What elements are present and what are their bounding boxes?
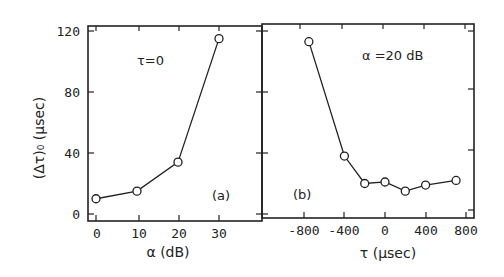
x-tick-a-10: 10: [131, 226, 147, 241]
series-line-b: [309, 42, 456, 191]
data-point-marker: [381, 178, 389, 186]
x-tick-b-800: 800: [454, 223, 477, 238]
y-tick-80: 80: [64, 85, 80, 100]
data-point-marker: [452, 176, 460, 184]
data-point-marker: [92, 195, 100, 203]
annotation-alpha-20db: α =20 dB: [362, 48, 423, 63]
panel-a-frame: [88, 26, 262, 221]
panel-label-b: (b): [293, 187, 311, 202]
data-point-marker: [361, 180, 369, 188]
annotation-tau-zero: τ=0: [137, 53, 164, 68]
x-tick-a-20: 20: [171, 226, 187, 241]
data-point-marker: [401, 187, 409, 195]
x-tick-b-m800: -800: [288, 223, 319, 238]
y-axis-label: (Δτ)₀ (µsec): [31, 97, 47, 179]
x-axis-label-a: α (dB): [146, 244, 189, 260]
x-tick-b-m400: -400: [328, 223, 359, 238]
data-point-marker: [174, 158, 182, 166]
data-point-marker: [422, 181, 430, 189]
data-point-marker: [133, 187, 141, 195]
x-axis-label-b: τ (µsec): [360, 245, 416, 261]
figure: 120 80 40 0 0 10 20 30 -800 -400 0 400 8…: [0, 0, 504, 277]
data-point-marker: [305, 38, 313, 46]
x-tick-a-0: 0: [93, 226, 101, 241]
x-tick-b-0: 0: [381, 223, 389, 238]
panel-label-a: (a): [212, 188, 230, 203]
y-tick-40: 40: [64, 146, 80, 161]
y-tick-120: 120: [57, 24, 80, 39]
x-tick-a-30: 30: [211, 226, 227, 241]
x-tick-b-400: 400: [414, 223, 437, 238]
data-point-marker: [340, 152, 348, 160]
data-point-marker: [215, 35, 223, 43]
y-tick-0: 0: [72, 207, 80, 222]
